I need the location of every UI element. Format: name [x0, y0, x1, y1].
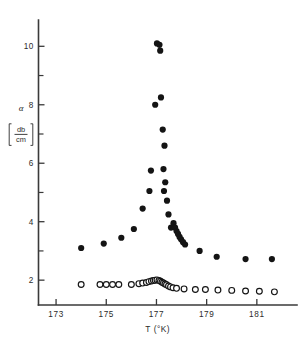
data-point — [161, 188, 167, 194]
data-point — [146, 188, 152, 194]
data-point — [101, 241, 107, 247]
y-tick-label: 4 — [29, 218, 34, 227]
data-point — [116, 282, 122, 288]
y-unit-numerator: db — [17, 125, 25, 134]
data-point — [162, 179, 168, 185]
scatter-plot: 246810173175177179181 T (°K)αdbcm — [0, 0, 305, 343]
data-point — [181, 286, 187, 292]
data-point — [128, 282, 134, 288]
x-tick-label: 181 — [249, 310, 264, 319]
axis-tick-labels: 246810173175177179181 — [24, 42, 265, 319]
data-point — [165, 211, 171, 217]
data-point — [203, 287, 209, 293]
data-point — [174, 285, 180, 291]
data-point — [152, 102, 158, 108]
plot-axes — [39, 20, 298, 305]
data-point — [242, 256, 248, 262]
y-axis-symbol-alpha: α — [19, 103, 24, 113]
y-tick-label: 2 — [29, 276, 34, 285]
data-point — [156, 42, 162, 48]
data-point — [158, 94, 164, 100]
data-series — [78, 40, 277, 294]
data-point — [78, 282, 84, 288]
y-unit-bracket-left — [9, 124, 11, 146]
y-unit-denominator: cm — [16, 135, 26, 144]
data-point — [148, 167, 154, 173]
data-point — [78, 245, 84, 251]
y-tick-label: 8 — [29, 101, 34, 110]
data-point — [140, 205, 146, 211]
data-point — [103, 282, 109, 288]
data-point — [197, 248, 203, 254]
data-point — [192, 287, 198, 293]
data-point — [157, 48, 163, 54]
x-axis-title: T (°K) — [145, 324, 170, 334]
x-tick-label: 177 — [149, 310, 164, 319]
y-tick-label: 6 — [29, 159, 34, 168]
x-tick-label: 175 — [99, 310, 114, 319]
x-tick-label: 173 — [48, 310, 63, 319]
data-point — [164, 198, 170, 204]
data-point — [214, 254, 220, 260]
data-point — [160, 127, 166, 133]
y-unit-bracket-right — [31, 124, 33, 146]
data-point — [269, 256, 275, 262]
data-point — [243, 288, 249, 294]
x-tick-label: 179 — [199, 310, 214, 319]
data-point — [161, 143, 167, 149]
data-point — [160, 166, 166, 172]
data-point — [97, 282, 103, 288]
series-filled-circles — [78, 40, 275, 262]
data-point — [215, 287, 221, 293]
data-point — [256, 288, 262, 294]
axis-ticks — [39, 46, 257, 305]
data-point — [272, 289, 278, 295]
data-point — [118, 235, 124, 241]
data-point — [182, 241, 188, 247]
attenuation-vs-temperature-figure: 246810173175177179181 T (°K)αdbcm — [0, 0, 305, 343]
data-point — [110, 282, 116, 288]
y-tick-label: 10 — [24, 42, 34, 51]
series-open-circles — [78, 277, 277, 295]
data-point — [131, 226, 137, 232]
data-point — [229, 287, 235, 293]
